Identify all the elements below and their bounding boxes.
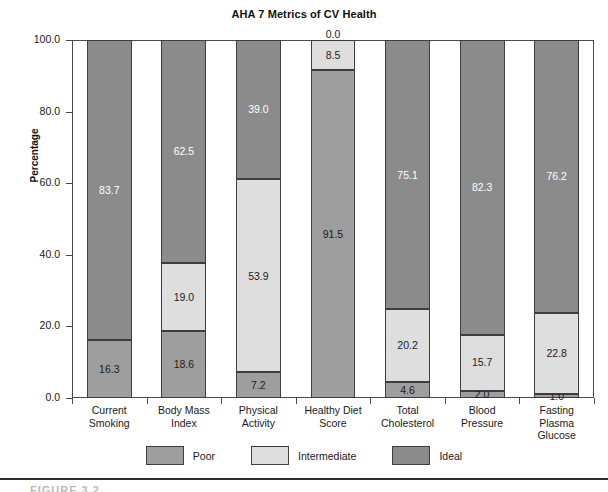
bar-stack: 1.022.876.2: [534, 40, 579, 398]
figure-caption: FIGURE 3.2: [30, 484, 100, 492]
x-axis-label-line: Physical: [221, 404, 296, 417]
bar-segment-poor[interactable]: 4.6: [385, 382, 430, 398]
x-axis-label-line: Activity: [221, 417, 296, 430]
bar-segment-value: 53.9: [248, 271, 268, 282]
bar-segment-value: 8.5: [326, 50, 341, 61]
bar-segment-inter[interactable]: 20.2: [385, 309, 430, 381]
bar-segment-poor[interactable]: 2.0: [460, 391, 505, 398]
legend-label: Intermediate: [298, 450, 356, 462]
bar-segment-poor[interactable]: 91.5: [311, 70, 356, 398]
x-axis-label-line: Smoking: [72, 417, 147, 430]
footer-divider: [0, 478, 608, 480]
bar-stack: 4.620.275.1: [385, 40, 430, 398]
bar-segment-ideal[interactable]: 83.7: [87, 40, 132, 340]
bar-segment-value: 20.2: [397, 340, 417, 351]
legend-item-inter[interactable]: Intermediate: [251, 446, 392, 465]
x-axis-label-line: Current: [72, 404, 147, 417]
bar-segment-inter[interactable]: 8.5: [311, 40, 356, 70]
y-tick-label: 40.0: [40, 248, 60, 260]
bar-stack: 18.619.062.5: [161, 40, 206, 398]
bar-group[interactable]: 4.620.275.1: [385, 40, 430, 398]
x-axis-label: TotalCholesterol: [370, 404, 445, 429]
y-tick-label: 0.0: [45, 391, 60, 403]
bar-segment-inter[interactable]: 19.0: [161, 263, 206, 331]
x-axis-label-line: Plasma: [519, 417, 594, 430]
bar-segment-value: 82.3: [472, 182, 492, 193]
bar-segment-inter[interactable]: 22.8: [534, 313, 579, 395]
bar-segment-poor[interactable]: 7.2: [236, 372, 281, 398]
x-axis-label-line: Glucose: [519, 429, 594, 442]
bar-segment-value: 62.5: [174, 146, 194, 157]
bar-group[interactable]: 2.015.782.3: [460, 40, 505, 398]
bar-segment-ideal[interactable]: 75.1: [385, 40, 430, 309]
bar-segment-ideal[interactable]: 82.3: [460, 40, 505, 335]
y-tick: 80.0: [0, 112, 72, 113]
bar-group[interactable]: 16.383.7: [87, 40, 132, 398]
x-axis-label: Healthy DietScore: [296, 404, 371, 429]
bar-stack: 7.253.939.0: [236, 40, 281, 398]
x-axis-label: Body MassIndex: [147, 404, 222, 429]
legend-swatch-ideal: [392, 446, 430, 465]
bar-segment-value: 83.7: [99, 185, 119, 196]
x-axis-label-line: Healthy Diet: [296, 404, 371, 417]
bar-stack: 2.015.782.3: [460, 40, 505, 398]
bar-group[interactable]: 7.253.939.0: [236, 40, 281, 398]
bar-stack: 16.383.7: [87, 40, 132, 398]
y-tick: 100.0: [0, 40, 72, 41]
bar-segment-value: 91.5: [323, 229, 343, 240]
legend-item-poor[interactable]: Poor: [146, 446, 251, 465]
x-axis-label-line: Pressure: [445, 417, 520, 430]
bar-segment-value: 15.7: [472, 357, 492, 368]
bar-stack: 91.58.50.0: [311, 40, 356, 398]
bar-segment-ideal[interactable]: 76.2: [534, 40, 579, 313]
y-tick-label: 100.0: [34, 33, 60, 45]
bar-group[interactable]: 91.58.50.0: [311, 40, 356, 398]
bar-segment-value: 16.3: [99, 364, 119, 375]
legend-label: Ideal: [439, 450, 462, 462]
x-axis-label-line: Index: [147, 417, 222, 430]
x-axis-label-line: Body Mass: [147, 404, 222, 417]
bar-segment-value: 0.0: [311, 29, 356, 40]
chart-title: AHA 7 Metrics of CV Health: [0, 8, 608, 20]
x-axis-labels: CurrentSmokingBody MassIndexPhysicalActi…: [72, 404, 594, 452]
y-tick: 0.0: [0, 398, 72, 399]
bar-group[interactable]: 18.619.062.5: [161, 40, 206, 398]
y-tick: 60.0: [0, 183, 72, 184]
bar-group[interactable]: 1.022.876.2: [534, 40, 579, 398]
x-axis-label: PhysicalActivity: [221, 404, 296, 429]
figure-container: AHA 7 Metrics of CV Health Percentage 0.…: [0, 0, 608, 492]
bar-segment-value: 18.6: [174, 359, 194, 370]
bar-segment-value: 22.8: [546, 348, 566, 359]
bar-segment-value: 4.6: [400, 385, 415, 396]
y-tick-label: 80.0: [40, 105, 60, 117]
legend-label: Poor: [193, 450, 215, 462]
x-axis-label-line: Fasting: [519, 404, 594, 417]
chart-legend: PoorIntermediateIdeal: [0, 446, 608, 465]
bar-segment-inter[interactable]: 15.7: [460, 335, 505, 391]
y-tick-label: 60.0: [40, 176, 60, 188]
bar-segment-value: 19.0: [174, 292, 194, 303]
bar-segment-poor[interactable]: 16.3: [87, 340, 132, 398]
bar-segment-value: 76.2: [546, 171, 566, 182]
y-tick: 20.0: [0, 326, 72, 327]
x-axis-label: CurrentSmoking: [72, 404, 147, 429]
y-axis-title: Percentage: [29, 96, 40, 216]
legend-swatch-poor: [146, 446, 184, 465]
bar-segment-ideal[interactable]: 62.5: [161, 40, 206, 264]
x-axis-label-line: Score: [296, 417, 371, 430]
x-axis-label: FastingPlasmaGlucose: [519, 404, 594, 442]
legend-item-ideal[interactable]: Ideal: [392, 446, 462, 465]
bar-segment-value: 7.2: [251, 380, 266, 391]
bar-segment-inter[interactable]: 53.9: [236, 179, 281, 372]
x-axis-label: BloodPressure: [445, 404, 520, 429]
x-axis-label-line: Total: [370, 404, 445, 417]
bars-layer: 16.383.718.619.062.57.253.939.091.58.50.…: [72, 40, 594, 398]
y-tick: 40.0: [0, 255, 72, 256]
x-axis-label-line: Blood: [445, 404, 520, 417]
bar-segment-value: 75.1: [397, 170, 417, 181]
x-tick-mark: [594, 398, 595, 404]
y-tick-label: 20.0: [40, 319, 60, 331]
bar-segment-ideal[interactable]: 39.0: [236, 40, 281, 180]
bar-segment-poor[interactable]: 18.6: [161, 331, 206, 398]
x-axis-label-line: Cholesterol: [370, 417, 445, 430]
